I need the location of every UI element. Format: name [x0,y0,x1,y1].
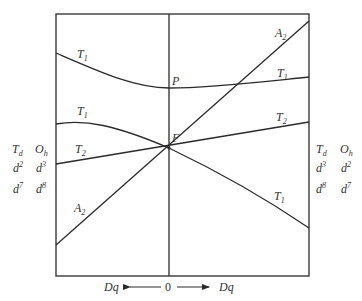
curve-upper-T1 [56,53,309,88]
label-upper-T1-left: T1 [77,47,88,63]
curve-A2 [56,21,309,245]
left-config-labels: Td Oh d2 d3 d7 d8 [12,142,48,196]
left-row1-Oh: d3 [36,160,46,175]
x-axis-annotation: Dq 0 Dq [103,280,234,294]
right-Td-header: Td [316,142,328,158]
label-A2-right: A2 [274,26,286,42]
svg-text:T2: T2 [75,142,86,158]
energy-level-diagram: T1 A2 T1 T1 T2 T2 A2 T1 P F Td Oh d2 d3 … [0,0,362,301]
left-row2-Td: d7 [13,181,24,196]
plot-frame [56,14,309,276]
right-row2-Td: d8 [316,181,326,196]
svg-text:T1: T1 [77,47,88,63]
left-Td-header: Td [12,142,24,158]
label-lower-T1-right: T1 [274,189,285,205]
curve-T2 [56,122,309,164]
label-mid-T1-left: T1 [77,104,88,120]
label-upper-T1-right: T1 [277,66,288,82]
point-F-label: F [171,131,180,145]
right-row1-Td: d3 [316,160,326,175]
label-T2-right: T2 [276,110,287,126]
svg-text:T2: T2 [276,110,287,126]
label-A2-left: A2 [73,201,85,217]
right-row2-Oh: d7 [341,181,352,196]
left-row2-Oh: d8 [36,181,46,196]
left-row1-Td: d2 [13,160,23,175]
left-Oh-header: Oh [35,142,48,158]
x-axis-right-label: Dq [218,280,234,294]
svg-text:T1: T1 [277,66,288,82]
svg-text:A2: A2 [274,26,286,42]
x-axis-left-label: Dq [103,280,119,294]
label-T2-left: T2 [75,142,86,158]
svg-text:T1: T1 [77,104,88,120]
right-config-labels: Td Oh d3 d2 d8 d7 [316,142,353,196]
svg-text:A2: A2 [73,201,85,217]
point-P-label: P [171,74,180,88]
right-Oh-header: Oh [340,142,353,158]
x-axis-zero-label: 0 [165,280,171,294]
point-F-marker [167,146,170,149]
right-row1-Oh: d2 [341,160,351,175]
svg-text:T1: T1 [274,189,285,205]
